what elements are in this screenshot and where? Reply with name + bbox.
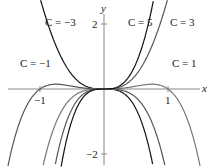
x-tick-label-neg1: −1 (34, 94, 46, 106)
y-axis-label: y (100, 2, 106, 14)
curve-label-c-neg3: C = −3 (45, 16, 76, 28)
curve-label-c-5: C = 5 (128, 16, 153, 28)
x-axis-label: x (201, 82, 207, 94)
y-tick-label-2: 2 (92, 18, 98, 30)
curve-label-c-neg1: C = −1 (20, 57, 51, 69)
chart-plot: x y −1 1 2 −2 C = −3 C = −1 C = 1 C = 3 … (0, 0, 214, 167)
curve-label-c-1: C = 1 (172, 57, 197, 69)
x-tick-label-1: 1 (165, 94, 171, 106)
y-tick-label-neg2: −2 (86, 148, 98, 160)
curve-label-c-3: C = 3 (170, 16, 195, 28)
curve-c-1 (43, 84, 200, 166)
